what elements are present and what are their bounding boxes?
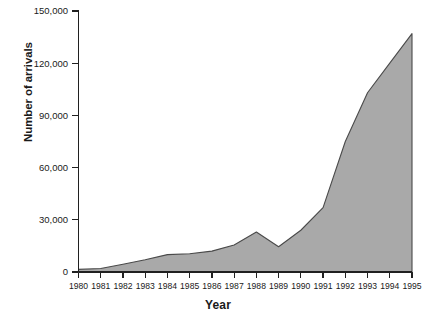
x-tick-label: 1989 xyxy=(269,281,288,291)
y-tick-label: 150,000 xyxy=(34,5,68,16)
chart-plot-area: 030,00060,00090,000120,000150,000 198019… xyxy=(0,0,436,320)
x-tick-label: 1988 xyxy=(247,281,266,291)
x-tick-label: 1990 xyxy=(291,281,310,291)
x-axis-tick-labels: 1980198119821983198419851986198719881989… xyxy=(69,281,422,291)
y-tick-label: 120,000 xyxy=(34,58,68,69)
x-tick-label: 1995 xyxy=(402,281,421,291)
y-tick-label: 90,000 xyxy=(39,110,68,121)
y-tick-label: 60,000 xyxy=(39,162,68,173)
x-tick-label: 1994 xyxy=(380,281,399,291)
x-tick-label: 1987 xyxy=(225,281,244,291)
x-tick-label: 1993 xyxy=(358,281,377,291)
area-chart-figure: Number of arrivals 030,00060,00090,00012… xyxy=(0,0,436,320)
x-tick-label: 1991 xyxy=(314,281,333,291)
y-tick-label: 30,000 xyxy=(39,214,68,225)
x-tick-label: 1992 xyxy=(336,281,355,291)
y-axis-tick-marks xyxy=(72,11,79,272)
x-axis-title: Year xyxy=(0,298,436,312)
x-tick-label: 1986 xyxy=(202,281,221,291)
series-area-number-of-arrivals xyxy=(79,34,413,272)
x-axis-tick-marks xyxy=(79,272,413,278)
x-tick-label: 1982 xyxy=(113,281,132,291)
x-tick-label: 1985 xyxy=(180,281,199,291)
x-tick-label: 1981 xyxy=(91,281,110,291)
y-axis-tick-labels: 030,00060,00090,000120,000150,000 xyxy=(34,5,68,277)
x-tick-label: 1980 xyxy=(69,281,88,291)
x-tick-label: 1984 xyxy=(158,281,177,291)
y-tick-label: 0 xyxy=(63,266,68,277)
x-tick-label: 1983 xyxy=(136,281,155,291)
